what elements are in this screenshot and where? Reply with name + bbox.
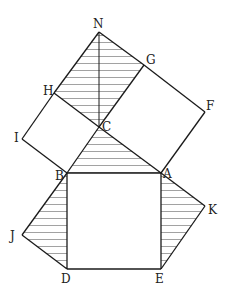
label-F: F [206, 99, 214, 113]
hatch-triangle-CBA [67, 131, 161, 173]
hatched-regions [22, 36, 205, 268]
segment-FA [161, 112, 205, 173]
segment-KE [161, 206, 205, 269]
label-I: I [14, 131, 19, 145]
geometry-diagram: NGFHICBAKJDE [0, 0, 232, 299]
segment-CG [99, 65, 144, 127]
label-J: J [8, 229, 15, 243]
label-A: A [162, 167, 172, 181]
label-H: H [43, 84, 53, 98]
segment-NH [54, 32, 99, 93]
label-C: C [102, 120, 111, 134]
segment-GF [144, 65, 205, 112]
label-K: K [208, 203, 218, 217]
figure-edges [22, 32, 205, 269]
label-B: B [55, 169, 64, 183]
label-E: E [155, 272, 164, 286]
label-N: N [93, 17, 104, 31]
segment-IB [22, 139, 67, 173]
hatch-triangle-BJD [22, 177, 67, 268]
segment-HI [22, 93, 54, 139]
label-G: G [146, 53, 156, 67]
segment-NG [99, 32, 144, 65]
segment-JD [22, 235, 67, 269]
segment-BC [67, 127, 99, 173]
label-D: D [61, 272, 71, 286]
